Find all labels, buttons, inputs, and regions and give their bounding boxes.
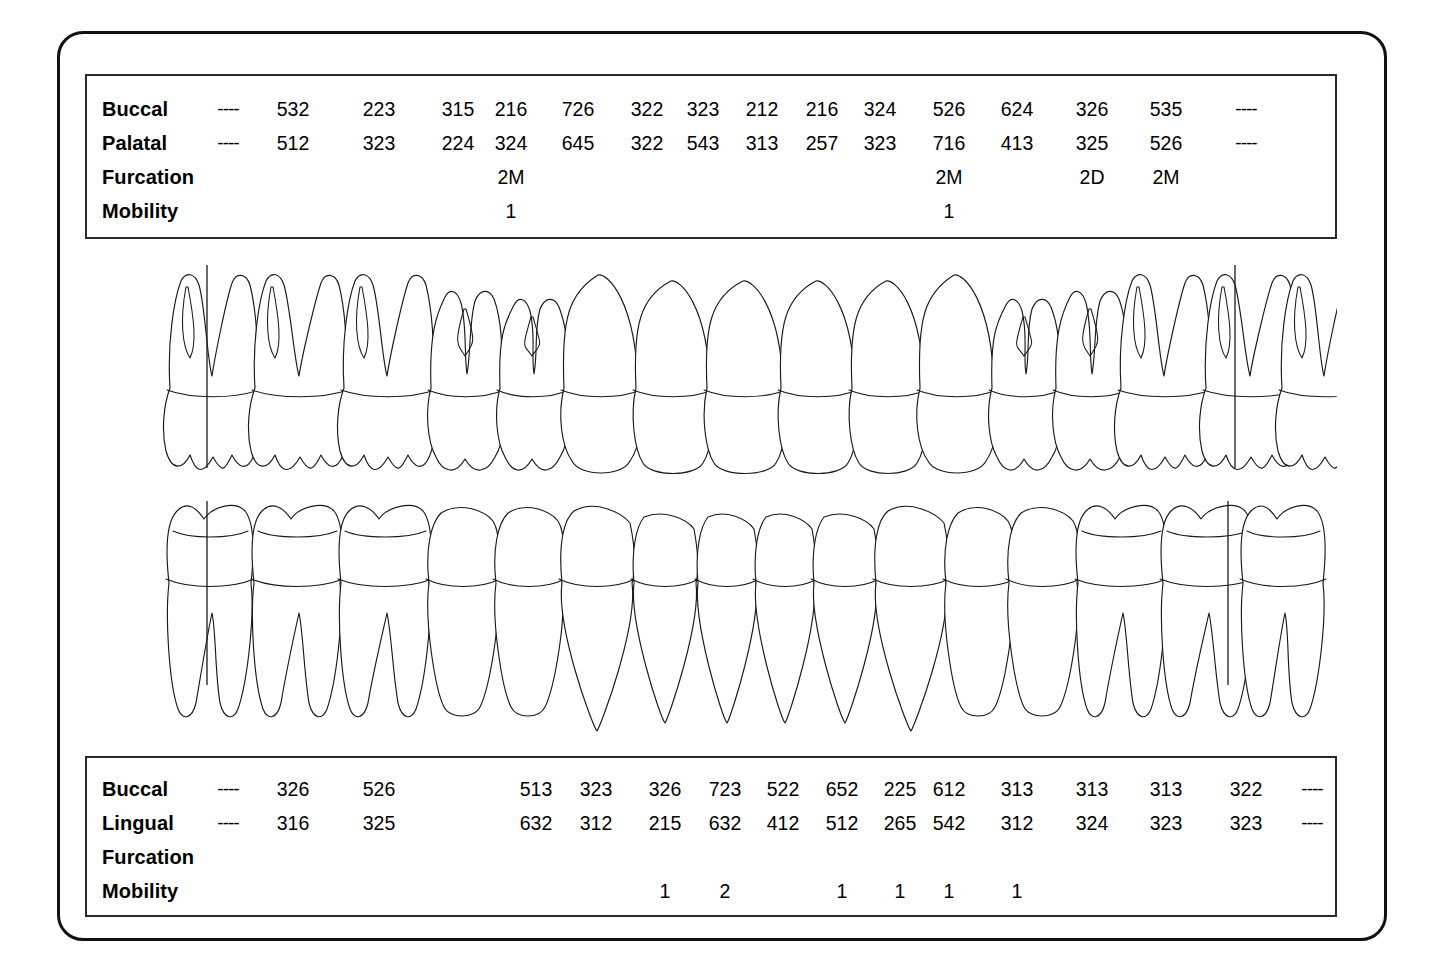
mandibular-lingual-cell-8[interactable]: 412: [767, 808, 800, 838]
maxillary-buccal-cell-5[interactable]: 726: [562, 94, 595, 124]
mandibular-lingual-cell-14[interactable]: 323: [1150, 808, 1183, 838]
upper-tooth-12: [989, 299, 1062, 470]
mandibular-lingual-cell-1[interactable]: 316: [277, 808, 310, 838]
maxillary-palatal-cell-0[interactable]: ----: [217, 128, 238, 158]
maxillary-buccal-cell-8[interactable]: 212: [746, 94, 779, 124]
mandibular-lingual-cell-0[interactable]: ----: [217, 808, 238, 838]
upper-tooth-14: [1114, 275, 1213, 470]
maxillary-buccal-cell-0[interactable]: ----: [217, 94, 238, 124]
row-label-furcation-maxillary: Furcation: [102, 162, 194, 192]
mandibular-buccal-cell-5[interactable]: 323: [580, 774, 613, 804]
lower-tooth-6: [559, 506, 635, 731]
mandibular-mobility-cell-9[interactable]: 1: [837, 876, 848, 906]
maxillary-mobility-cell-11[interactable]: 1: [944, 196, 955, 226]
upper-tooth-9: [778, 281, 858, 474]
mandibular-furcation-row: Furcation: [87, 842, 1335, 872]
maxillary-furcation-cell-4[interactable]: 2M: [497, 162, 524, 192]
maxillary-palatal-cell-1[interactable]: 512: [277, 128, 310, 158]
maxillary-buccal-cell-2[interactable]: 223: [363, 94, 396, 124]
mandibular-buccal-cell-10[interactable]: 225: [884, 774, 917, 804]
upper-tooth-10: [849, 281, 927, 474]
mandibular-buccal-cell-2[interactable]: 526: [363, 774, 396, 804]
upper-tooth-8: [704, 281, 786, 474]
maxillary-buccal-cell-14[interactable]: 535: [1150, 94, 1183, 124]
row-label-buccal-mandibular: Buccal: [102, 774, 168, 804]
maxillary-buccal-cell-7[interactable]: 323: [687, 94, 720, 124]
maxillary-buccal-cell-11[interactable]: 526: [933, 94, 966, 124]
mandibular-mobility-row: Mobility: [87, 876, 1335, 906]
lower-tooth-14: [1075, 506, 1167, 717]
maxillary-palatal-cell-6[interactable]: 322: [631, 128, 664, 158]
maxillary-palatal-cell-2[interactable]: 323: [363, 128, 396, 158]
maxillary-palatal-cell-14[interactable]: 526: [1150, 128, 1183, 158]
maxillary-buccal-cell-3[interactable]: 315: [442, 94, 475, 124]
mandibular-buccal-cell-15[interactable]: 322: [1230, 774, 1263, 804]
maxillary-buccal-cell-13[interactable]: 326: [1076, 94, 1109, 124]
mandibular-mobility-cell-6[interactable]: 1: [660, 876, 671, 906]
mandibular-buccal-cell-7[interactable]: 723: [709, 774, 742, 804]
mandibular-lingual-cell-5[interactable]: 312: [580, 808, 613, 838]
mandibular-teeth: [166, 506, 1326, 731]
mandibular-buccal-cell-6[interactable]: 326: [649, 774, 682, 804]
mandibular-mobility-cell-12[interactable]: 1: [1012, 876, 1023, 906]
mandibular-buccal-cell-4[interactable]: 513: [520, 774, 553, 804]
mandibular-lingual-cell-12[interactable]: 312: [1001, 808, 1034, 838]
mandibular-buccal-cell-1[interactable]: 326: [277, 774, 310, 804]
row-label-buccal-maxillary: Buccal: [102, 94, 168, 124]
row-label-mobility-maxillary: Mobility: [102, 196, 178, 226]
mandibular-mobility-cell-7[interactable]: 2: [720, 876, 731, 906]
maxillary-buccal-cell-15[interactable]: ----: [1235, 94, 1256, 124]
maxillary-furcation-cell-13[interactable]: 2D: [1080, 162, 1105, 192]
maxillary-palatal-cell-10[interactable]: 323: [864, 128, 897, 158]
mandibular-buccal-cell-11[interactable]: 612: [933, 774, 966, 804]
mandibular-lingual-cell-16[interactable]: ----: [1301, 808, 1322, 838]
maxillary-palatal-cell-13[interactable]: 325: [1076, 128, 1109, 158]
mandibular-buccal-cell-8[interactable]: 522: [767, 774, 800, 804]
mandibular-lingual-cell-2[interactable]: 325: [363, 808, 396, 838]
mandibular-mobility-cell-11[interactable]: 1: [944, 876, 955, 906]
mandibular-lingual-cell-4[interactable]: 632: [520, 808, 553, 838]
mandibular-buccal-cell-14[interactable]: 313: [1150, 774, 1183, 804]
mandibular-perio-table: Buccal Lingual Furcation Mobility ----32…: [85, 756, 1337, 917]
maxillary-palatal-cell-11[interactable]: 716: [933, 128, 966, 158]
mandibular-lingual-cell-11[interactable]: 542: [933, 808, 966, 838]
maxillary-perio-table: Buccal Palatal Furcation Mobility ----53…: [85, 74, 1337, 239]
maxillary-buccal-cell-6[interactable]: 322: [631, 94, 664, 124]
maxillary-palatal-cell-4[interactable]: 324: [495, 128, 528, 158]
maxillary-buccal-cell-10[interactable]: 324: [864, 94, 897, 124]
mandibular-lingual-cell-6[interactable]: 215: [649, 808, 682, 838]
mandibular-lingual-cell-15[interactable]: 323: [1230, 808, 1263, 838]
maxillary-palatal-cell-7[interactable]: 543: [687, 128, 720, 158]
lower-tooth-8: [695, 514, 759, 723]
mandibular-lingual-cell-10[interactable]: 265: [884, 808, 917, 838]
maxillary-buccal-cell-4[interactable]: 216: [495, 94, 528, 124]
maxillary-buccal-cell-1[interactable]: 532: [277, 94, 310, 124]
maxillary-palatal-cell-5[interactable]: 645: [562, 128, 595, 158]
maxillary-buccal-cell-12[interactable]: 624: [1001, 94, 1034, 124]
periodontal-chart-page: Buccal Palatal Furcation Mobility ----53…: [0, 0, 1429, 965]
maxillary-buccal-cell-9[interactable]: 216: [806, 94, 839, 124]
maxillary-palatal-cell-3[interactable]: 224: [442, 128, 475, 158]
maxillary-palatal-cell-9[interactable]: 257: [806, 128, 839, 158]
mandibular-mobility-cell-10[interactable]: 1: [895, 876, 906, 906]
maxillary-furcation-cell-14[interactable]: 2M: [1152, 162, 1179, 192]
mandibular-buccal-cell-16[interactable]: ----: [1301, 774, 1322, 804]
maxillary-furcation-cell-11[interactable]: 2M: [935, 162, 962, 192]
mandibular-buccal-cell-0[interactable]: ----: [217, 774, 238, 804]
lower-tooth-11: [873, 506, 949, 731]
upper-tooth-3: [337, 275, 436, 470]
mandibular-lingual-cell-7[interactable]: 632: [709, 808, 742, 838]
mandibular-buccal-cell-13[interactable]: 313: [1076, 774, 1109, 804]
lower-tooth-12: [943, 508, 1015, 716]
maxillary-mobility-cell-4[interactable]: 1: [506, 196, 517, 226]
lower-tooth-4: [426, 508, 500, 716]
tooth-diagram-svg: [85, 243, 1337, 755]
mandibular-lingual-cell-9[interactable]: 512: [826, 808, 859, 838]
mandibular-buccal-cell-9[interactable]: 652: [826, 774, 859, 804]
maxillary-palatal-cell-8[interactable]: 313: [746, 128, 779, 158]
lower-tooth-13: [1006, 508, 1080, 716]
maxillary-palatal-cell-15[interactable]: ----: [1235, 128, 1256, 158]
mandibular-lingual-cell-13[interactable]: 324: [1076, 808, 1109, 838]
mandibular-buccal-cell-12[interactable]: 313: [1001, 774, 1034, 804]
maxillary-palatal-cell-12[interactable]: 413: [1001, 128, 1034, 158]
